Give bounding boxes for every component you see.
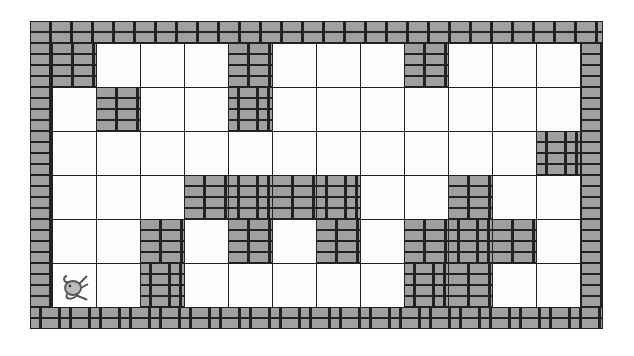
maze-open-cell[interactable] — [316, 43, 361, 88]
maze-open-cell[interactable] — [404, 131, 449, 176]
maze-open-cell[interactable] — [360, 263, 405, 308]
maze-open-cell[interactable] — [184, 87, 229, 132]
maze-wall-cell — [404, 263, 449, 308]
maze-start-cell[interactable] — [52, 263, 97, 308]
outer-wall-bottom — [30, 307, 603, 329]
maze-open-cell[interactable] — [492, 87, 537, 132]
maze-open-cell[interactable] — [272, 87, 317, 132]
maze-open-cell[interactable] — [96, 263, 141, 308]
maze-open-cell[interactable] — [96, 175, 141, 220]
maze-open-cell[interactable] — [272, 219, 317, 264]
outer-wall-left — [30, 43, 52, 307]
maze-open-cell[interactable] — [96, 131, 141, 176]
maze-open-cell[interactable] — [52, 175, 97, 220]
maze-open-cell[interactable] — [316, 87, 361, 132]
maze-open-cell[interactable] — [96, 219, 141, 264]
maze-open-cell[interactable] — [536, 175, 581, 220]
maze-open-cell[interactable] — [448, 87, 493, 132]
maze-open-cell[interactable] — [272, 131, 317, 176]
maze-open-cell[interactable] — [360, 131, 405, 176]
maze-open-cell[interactable] — [360, 87, 405, 132]
maze-open-cell[interactable] — [316, 131, 361, 176]
maze-wall-cell — [536, 131, 581, 176]
maze-wall-cell — [96, 87, 141, 132]
maze-open-cell[interactable] — [140, 43, 185, 88]
maze-open-cell[interactable] — [228, 131, 273, 176]
maze-wall-cell — [316, 219, 361, 264]
maze-wall-cell — [448, 175, 493, 220]
maze-open-cell[interactable] — [228, 263, 273, 308]
maze-wall-cell — [492, 219, 537, 264]
maze-open-cell[interactable] — [448, 131, 493, 176]
maze-open-cell[interactable] — [536, 219, 581, 264]
maze-wall-cell — [140, 263, 185, 308]
maze-open-cell[interactable] — [272, 43, 317, 88]
maze-open-cell[interactable] — [316, 263, 361, 308]
maze-open-cell[interactable] — [536, 43, 581, 88]
maze-wall-cell — [316, 175, 361, 220]
maze-wall-cell — [140, 219, 185, 264]
maze-open-cell[interactable] — [404, 175, 449, 220]
maze-wall-cell — [228, 219, 273, 264]
outer-wall-top — [30, 21, 603, 43]
maze-open-cell[interactable] — [52, 87, 97, 132]
maze-open-cell[interactable] — [360, 219, 405, 264]
maze-open-cell[interactable] — [52, 219, 97, 264]
maze-open-cell[interactable] — [140, 175, 185, 220]
maze-open-cell[interactable] — [184, 219, 229, 264]
maze-open-cell[interactable] — [360, 175, 405, 220]
outer-wall-right — [581, 43, 603, 307]
maze-open-cell[interactable] — [536, 87, 581, 132]
maze-open-cell[interactable] — [184, 131, 229, 176]
mouse-icon[interactable] — [59, 270, 91, 302]
maze-open-cell[interactable] — [492, 43, 537, 88]
maze-open-cell[interactable] — [272, 263, 317, 308]
maze-open-cell[interactable] — [52, 131, 97, 176]
maze-open-cell[interactable] — [184, 43, 229, 88]
maze-wall-cell — [404, 219, 449, 264]
maze-wall-cell — [228, 87, 273, 132]
maze-open-cell[interactable] — [140, 131, 185, 176]
maze-wall-cell — [448, 219, 493, 264]
maze-wall-cell — [228, 43, 273, 88]
maze-open-cell[interactable] — [536, 263, 581, 308]
maze-open-cell[interactable] — [140, 87, 185, 132]
maze-wall-cell — [448, 263, 493, 308]
maze-wall-cell — [228, 175, 273, 220]
maze-open-cell[interactable] — [404, 87, 449, 132]
maze-wall-cell — [184, 175, 229, 220]
maze-open-cell[interactable] — [492, 175, 537, 220]
maze-open-cell[interactable] — [492, 263, 537, 308]
maze-board — [30, 21, 603, 329]
maze-open-cell[interactable] — [492, 131, 537, 176]
maze-open-cell[interactable] — [96, 43, 141, 88]
maze-wall-cell — [404, 43, 449, 88]
maze-open-cell[interactable] — [360, 43, 405, 88]
maze-open-cell[interactable] — [184, 263, 229, 308]
maze-wall-cell — [272, 175, 317, 220]
maze-wall-cell — [52, 43, 97, 88]
maze-open-cell[interactable] — [448, 43, 493, 88]
